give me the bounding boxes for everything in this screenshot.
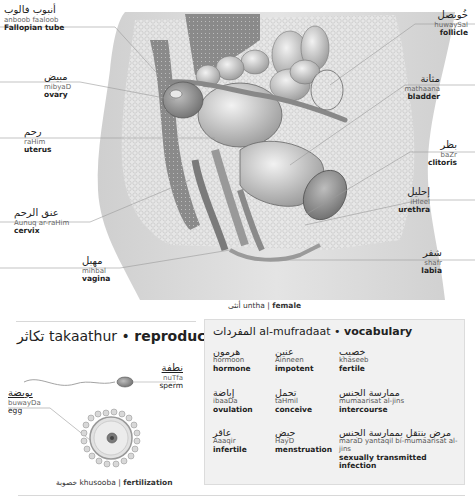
caption-translit: khusooba <box>80 478 116 487</box>
label-arabic: خُويصل <box>434 10 468 21</box>
label-english: uterus <box>24 146 52 154</box>
label-arabic: أنبوب فالوب <box>4 5 64 16</box>
vocab-translit: maraD yantaqil bi-mumaarisat al-jins <box>339 438 464 453</box>
label-fallopian-tube: أنبوب فالوب anboob faaloob Fallopian tub… <box>4 5 64 32</box>
vocab-item-fertile: خصيب khaseeb fertile <box>339 347 368 373</box>
label-english: cervix <box>14 227 69 235</box>
caption-arabic: خصوبة <box>56 478 77 487</box>
label-english: vagina <box>82 275 110 283</box>
label-arabic: مثانة <box>404 74 440 85</box>
title-english: vocabulary <box>344 325 412 338</box>
label-bladder: مثانة mathaana bladder <box>404 74 440 101</box>
label-egg: بويضة buwayDa egg <box>8 388 41 415</box>
caption-english: female <box>272 301 301 310</box>
label-sperm: نطفة nuTfa sperm <box>159 363 183 390</box>
title-arabic: تكاثر <box>17 328 45 344</box>
vocab-english: intercourse <box>339 406 404 414</box>
label-english: sperm <box>159 382 183 390</box>
label-arabic: نطفة <box>159 363 183 374</box>
caption-separator: | <box>118 478 121 487</box>
vocab-item-hormone: هرمون hormoon hormone <box>213 347 251 373</box>
bottom-divider <box>18 495 465 496</box>
caption-translit: untha <box>243 301 265 310</box>
vocab-english: menstruation <box>275 446 332 454</box>
fertilization-caption: خصوبة khusooba | fertilization <box>56 478 173 487</box>
vocab-english: impotent <box>275 365 314 373</box>
label-arabic: بظر <box>428 140 457 151</box>
label-arabic: بويضة <box>8 388 41 399</box>
label-urethra: إحليل iHleel urethra <box>398 187 430 214</box>
label-english: clitoris <box>428 159 457 167</box>
label-follicle: خُويصل huwaySal follicle <box>434 10 468 37</box>
vocabulary-title: المفردات al-mufradaat • vocabulary <box>213 325 412 338</box>
title-arabic: المفردات <box>213 325 256 338</box>
title-bullet: • <box>334 325 341 338</box>
vocab-english: fertile <box>339 365 368 373</box>
label-ovary: مبيض mibyaD ovary <box>44 72 71 99</box>
label-english: urethra <box>398 206 430 214</box>
vocab-item-sti: مرض ينتقل بممارسة الجنس maraD yantaqil b… <box>339 428 464 470</box>
label-labia: شفر shafr labia <box>421 248 442 275</box>
label-arabic: إحليل <box>398 187 430 198</box>
vocab-item-infertile: عاقر Aaaqir infertile <box>213 428 247 454</box>
title-translit: takaathur <box>49 328 117 344</box>
label-arabic: مهبل <box>82 256 110 267</box>
vocab-item-intercourse: ممارسة الجنس mumaarisat al-jins intercou… <box>339 388 404 414</box>
label-english: follicle <box>434 29 468 37</box>
female-anatomy-illustration <box>0 0 475 300</box>
section-divider <box>16 321 196 322</box>
label-english: ovary <box>44 91 71 99</box>
vocab-item-impotent: عنين Ainneen impotent <box>275 347 314 373</box>
label-arabic: شفر <box>421 248 442 259</box>
label-uterus: رحم raHim uterus <box>24 127 52 154</box>
label-vagina: مهبل mihbal vagina <box>82 256 110 283</box>
vocab-english: conceive <box>275 406 312 414</box>
title-translit: al-mufradaat <box>259 325 330 338</box>
caption-arabic: أنثى <box>228 301 241 310</box>
label-english: egg <box>8 407 41 415</box>
vocab-item-conceive: تحمل taHmil conceive <box>275 388 312 414</box>
vocab-english: ovulation <box>213 406 253 414</box>
label-english: labia <box>421 267 442 275</box>
title-bullet: • <box>122 328 130 344</box>
label-arabic: مبيض <box>44 72 71 83</box>
vocab-item-ovulation: إباضة ibaaDa ovulation <box>213 388 253 414</box>
caption-separator: | <box>267 301 270 310</box>
vocab-english: hormone <box>213 365 251 373</box>
label-cervix: عنق الرحم Aunuq ar-raHim cervix <box>14 208 69 235</box>
vocabulary-box: المفردات al-mufradaat • vocabulary هرمون… <box>204 319 465 485</box>
vocab-english: sexually transmitted infection <box>339 454 464 471</box>
label-english: Fallopian tube <box>4 24 64 32</box>
vocab-item-menstruation: حيض HayD menstruation <box>275 428 332 454</box>
label-clitoris: بظر baZr clitoris <box>428 140 457 167</box>
label-arabic: رحم <box>24 127 52 138</box>
label-arabic: عنق الرحم <box>14 208 69 219</box>
label-english: bladder <box>404 93 440 101</box>
vocab-english: infertile <box>213 446 247 454</box>
sperm-illustration <box>20 370 180 394</box>
female-caption: أنثى untha | female <box>228 301 301 310</box>
caption-english: fertilization <box>123 478 172 487</box>
